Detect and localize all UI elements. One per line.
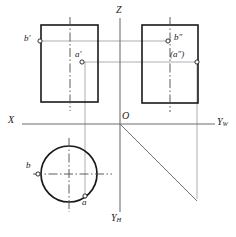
point-label-a-side-paren-close: ) bbox=[181, 49, 184, 59]
point-label-b-side-prime: ″ bbox=[179, 32, 183, 42]
axis-label-origin: O bbox=[122, 111, 129, 121]
point-label-a-side: (a″) bbox=[170, 50, 184, 59]
point-label-a-front: a′ bbox=[75, 50, 81, 59]
point-marker-b-top bbox=[36, 172, 40, 176]
projection-lines-group: b" horizontal projection line --> a" hor… bbox=[40, 41, 197, 199]
axis-label-x-text: X bbox=[8, 114, 14, 125]
axis-label-x: X bbox=[8, 115, 14, 125]
point-label-a-front-prime: ′ bbox=[80, 49, 82, 59]
point-label-a-top: a bbox=[82, 198, 87, 207]
miter-45-degree-line bbox=[120, 124, 197, 201]
point-marker-a-front bbox=[80, 60, 84, 64]
axis-label-yh-subscript: H bbox=[117, 216, 122, 223]
axis-label-z: Z bbox=[116, 5, 122, 15]
axis-label-yw-subscript: W bbox=[223, 120, 228, 127]
point-label-b-front-prime: ′ bbox=[29, 33, 31, 43]
projection-drawing-svg: b" horizontal projection line --> a" hor… bbox=[0, 0, 236, 237]
projection-drawing-canvas: b" horizontal projection line --> a" hor… bbox=[0, 0, 236, 237]
point-label-b-front: b′ bbox=[24, 34, 30, 43]
point-label-b-top-base: b bbox=[26, 160, 31, 170]
axis-label-origin-text: O bbox=[122, 110, 129, 121]
point-label-b-top: b bbox=[26, 161, 31, 170]
front-view-rectangle bbox=[41, 25, 98, 102]
point-marker-a-side bbox=[195, 60, 199, 64]
axis-label-yh: YH bbox=[111, 213, 121, 223]
point-marker-b-front bbox=[38, 39, 42, 43]
axis-label-yw: YW bbox=[217, 117, 228, 127]
axis-label-z-text: Z bbox=[116, 4, 122, 15]
axes-group bbox=[22, 18, 215, 212]
point-label-b-side: b″ bbox=[174, 33, 182, 42]
point-marker-b-side bbox=[166, 39, 170, 43]
point-label-a-top-base: a bbox=[82, 197, 87, 207]
